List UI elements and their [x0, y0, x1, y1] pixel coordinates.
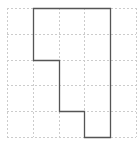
grid-diagram: [0, 0, 138, 152]
dashed-grid: [7, 8, 137, 138]
polyomino-shape: [34, 9, 111, 138]
